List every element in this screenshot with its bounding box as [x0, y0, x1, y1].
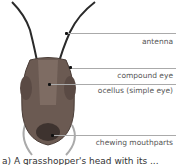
antenna-pointer [65, 32, 68, 35]
antenna-leader-line [66, 33, 176, 34]
label-ocellus: ocellus (simple eye) [98, 86, 173, 95]
compound-eye-pointer [69, 66, 72, 69]
ocellus-pointer [48, 83, 51, 86]
mouthparts-pointer [51, 134, 54, 137]
label-compound-eye: compound eye [117, 71, 173, 80]
ocellus-leader-line [50, 84, 176, 85]
label-antenna: antenna [142, 37, 173, 46]
figure-caption: a) A grasshopper's head with its ... [2, 156, 159, 165]
label-mouthparts: chewing mouthparts [96, 138, 173, 147]
compound-eye-leader-line [70, 68, 176, 69]
mouthparts-leader-line [52, 135, 176, 136]
